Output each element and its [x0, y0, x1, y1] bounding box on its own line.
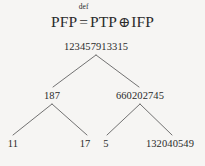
- tree-leaf-5: 5: [103, 139, 108, 150]
- figure-canvas: PFPdef=PTP⊕IFP 123457913315 187 66020274…: [0, 0, 205, 166]
- tree-node-root: 123457913315: [64, 42, 128, 53]
- edge-187-to-17: [52, 104, 87, 135]
- edge-660202745-to-5: [107, 104, 140, 135]
- edge-187-to-11: [13, 104, 52, 135]
- edge-root-to-660202745: [96, 55, 139, 87]
- tree-node-187: 187: [44, 91, 60, 102]
- tree-leaf-11: 11: [8, 139, 18, 150]
- factorization-tree: 123457913315 187 660202745 11 17 5 13204…: [0, 0, 205, 166]
- edge-root-to-187: [53, 55, 96, 87]
- tree-node-660202745: 660202745: [116, 91, 164, 102]
- tree-leaf-132040549: 132040549: [146, 139, 194, 150]
- edge-660202745-to-132040549: [140, 104, 172, 135]
- tree-leaf-17: 17: [80, 139, 91, 150]
